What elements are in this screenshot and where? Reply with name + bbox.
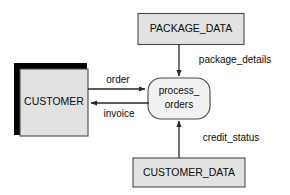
customer-data-store-label: CUSTOMER_DATA	[143, 166, 235, 178]
node-package-data-store[interactable]: PACKAGE_DATA	[138, 14, 244, 45]
process-orders-label-line1: process_	[159, 85, 200, 96]
node-customer-entity[interactable]: CUSTOMER	[14, 63, 88, 136]
customer-entity-label: CUSTOMER	[24, 95, 84, 107]
dfd-svg-root: PACKAGE_DATA CUSTOMER process_ orders CU…	[0, 0, 290, 195]
process-orders-label-line2: orders	[165, 99, 193, 110]
flow-credit-status[interactable]: credit_status	[179, 121, 259, 158]
package-data-store-label: PACKAGE_DATA	[150, 22, 232, 34]
flow-invoice-label: invoice	[103, 108, 135, 119]
flow-order[interactable]: order	[88, 74, 145, 89]
flow-order-label: order	[106, 74, 130, 85]
flow-credit-status-label: credit_status	[203, 132, 260, 143]
flow-package-details[interactable]: package_details	[179, 45, 271, 77]
flow-invoice[interactable]: invoice	[91, 103, 149, 119]
node-process-orders[interactable]: process_ orders	[148, 78, 210, 119]
flow-package-details-label: package_details	[199, 54, 271, 65]
node-customer-data-store[interactable]: CUSTOMER_DATA	[133, 158, 245, 187]
dfd-diagram-canvas: PACKAGE_DATA CUSTOMER process_ orders CU…	[0, 0, 290, 195]
